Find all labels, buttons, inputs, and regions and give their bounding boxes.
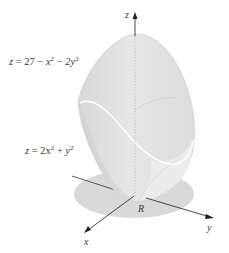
figure: z y x R z = 27 − x2 − 2y2 z = 2x2 + y2 xyxy=(0,0,229,253)
eq-lhs: z xyxy=(9,56,13,67)
eq-term: 2y xyxy=(65,56,75,67)
x-axis-label: x xyxy=(84,236,88,247)
z-axis-label: z xyxy=(125,9,129,20)
eq-sign: = xyxy=(16,56,22,67)
eq-exponent: 2 xyxy=(51,55,55,63)
eq-exponent: 2 xyxy=(75,55,79,63)
upper-surface-label: z = 27 − x2 − 2y2 xyxy=(9,56,79,67)
eq-exponent: 2 xyxy=(70,144,74,152)
y-axis-arrow-icon xyxy=(205,214,214,219)
eq-lhs: z xyxy=(25,145,29,156)
eq-minus: − xyxy=(37,56,43,67)
x-axis-arrow-icon xyxy=(84,226,91,233)
eq-minus: − xyxy=(57,56,63,67)
eq-sign: = xyxy=(32,145,38,156)
y-axis-label: y xyxy=(207,222,211,233)
lower-surface-label: z = 2x2 + y2 xyxy=(25,145,74,156)
eq-plus: + xyxy=(57,145,63,156)
eq-term: 2x xyxy=(40,145,51,156)
eq-const: 27 xyxy=(24,56,35,67)
z-axis-arrow-icon xyxy=(133,12,138,19)
eq-exponent: 2 xyxy=(51,144,55,152)
solid-diagram xyxy=(0,0,229,253)
region-label: R xyxy=(138,203,144,214)
